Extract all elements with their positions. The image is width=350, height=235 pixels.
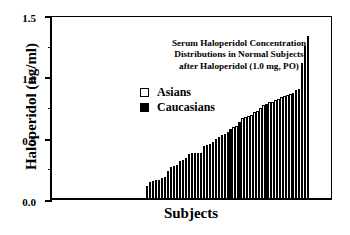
chart-title-line-2: Distributions in Normal Subjects [134, 49, 344, 60]
y-tick-major-0: 0.0 [45, 200, 52, 202]
legend-item-asians: Asians [140, 85, 215, 99]
y-tick-label-1: 0.5 [22, 135, 36, 147]
legend-label-asians: Asians [157, 85, 191, 100]
plot-area: 0.00.51.01.5 Serum Haloperidol Concentra… [50, 16, 332, 200]
legend-swatch-caucasians-icon [140, 103, 149, 112]
legend-label-caucasians: Caucasians [157, 100, 215, 115]
y-tick-label-2: 1.0 [22, 73, 36, 85]
y-axis-label: Haloperidol (ng/ml) [23, 12, 40, 202]
y-tick-major-2: 1.0 [45, 77, 52, 79]
y-tick-label-0: 0.0 [22, 196, 36, 208]
x-axis-label: Subjects [50, 205, 332, 222]
y-tick-major-1: 0.5 [45, 139, 52, 141]
legend-item-caucasians: Caucasians [140, 100, 215, 114]
chart-title-line-3: after Haloperidol (1.0 mg, PO) [134, 61, 344, 72]
chart-title-line-1: Serum Haloperidol Concentration [134, 38, 344, 49]
chart-figure: Haloperidol (ng/ml) 0.00.51.01.5 Serum H… [0, 0, 350, 235]
y-tick-label-3: 1.5 [22, 12, 36, 24]
chart-title: Serum Haloperidol ConcentrationDistribut… [134, 38, 344, 72]
legend-swatch-asians-icon [140, 88, 149, 97]
y-tick-major-3: 1.5 [45, 16, 52, 18]
chart-legend: Asians Caucasians [140, 85, 215, 115]
